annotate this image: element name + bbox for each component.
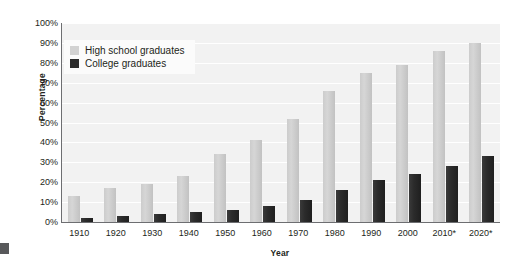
y-axis-tick-label: 30% <box>18 158 58 167</box>
bar-high-school <box>141 184 153 222</box>
bar-college <box>300 200 312 222</box>
x-axis-title: Year <box>61 248 499 258</box>
x-axis-tick-label: 2000 <box>390 228 427 238</box>
y-axis-tick-label: 20% <box>18 178 58 187</box>
corner-mark <box>0 243 9 254</box>
x-axis-tick-label: 1970 <box>280 228 317 238</box>
legend-item: College graduates <box>70 57 185 70</box>
y-axis-tick-label: 50% <box>18 118 58 127</box>
y-axis-tick-label: 10% <box>18 198 58 207</box>
bar-group <box>427 23 464 222</box>
x-axis-tick-label: 1930 <box>134 228 171 238</box>
y-axis-tick-label: 40% <box>18 138 58 147</box>
bar-high-school <box>323 91 335 222</box>
legend-label: High school graduates <box>85 45 185 56</box>
bar-college <box>117 216 129 222</box>
bar-high-school <box>214 154 226 222</box>
bar-high-school <box>104 188 116 222</box>
y-axis-tick-label: 0% <box>18 218 58 227</box>
x-axis-tick-label: 1990 <box>353 228 390 238</box>
bar-college <box>409 174 421 222</box>
bar-group <box>391 23 428 222</box>
bar-college <box>446 166 458 222</box>
y-axis-tick-label: 90% <box>18 38 58 47</box>
bar-college <box>154 214 166 222</box>
bar-college <box>336 190 348 222</box>
bar-college <box>227 210 239 222</box>
x-axis-tick-label: 1920 <box>98 228 135 238</box>
legend-swatch-icon <box>70 59 79 68</box>
x-axis-tick-labels: 1910192019301940195019601970198019902000… <box>61 228 499 238</box>
legend-swatch-icon <box>70 46 79 55</box>
bar-high-school <box>360 73 372 222</box>
bar-group <box>354 23 391 222</box>
x-axis-tick-label: 1950 <box>207 228 244 238</box>
bar-group <box>245 23 282 222</box>
bar-college <box>81 218 93 222</box>
x-axis-tick-label: 1940 <box>171 228 208 238</box>
y-axis-tick-label: 60% <box>18 98 58 107</box>
bar-college <box>482 156 494 222</box>
bar-high-school <box>396 65 408 222</box>
bar-high-school <box>177 176 189 222</box>
x-axis-tick-label: 1980 <box>317 228 354 238</box>
chart-legend: High school graduatesCollege graduates <box>64 40 195 74</box>
bar-high-school <box>433 51 445 222</box>
bar-college <box>373 180 385 222</box>
y-axis-tick-labels: 100%90%80%70%60%50%40%30%20%10%0% <box>18 23 58 222</box>
bar-chart: Percentage 100%90%80%70%60%50%40%30%20%1… <box>0 0 507 275</box>
bar-high-school <box>287 119 299 222</box>
bar-group <box>281 23 318 222</box>
bar-high-school <box>250 140 262 222</box>
x-axis-tick-label: 1960 <box>244 228 281 238</box>
y-axis-tick-label: 100% <box>18 19 58 28</box>
bar-high-school <box>68 196 80 222</box>
y-axis-tick-label: 80% <box>18 58 58 67</box>
bar-high-school <box>469 43 481 222</box>
x-axis-tick-label: 2010* <box>426 228 463 238</box>
bar-college <box>190 212 202 222</box>
bar-group <box>318 23 355 222</box>
bar-group <box>208 23 245 222</box>
x-axis-tick-label: 2020* <box>463 228 500 238</box>
legend-label: College graduates <box>85 58 166 69</box>
bar-group <box>464 23 501 222</box>
x-axis-tick-label: 1910 <box>61 228 98 238</box>
bar-college <box>263 206 275 222</box>
legend-item: High school graduates <box>70 44 185 57</box>
y-axis-tick-label: 70% <box>18 78 58 87</box>
